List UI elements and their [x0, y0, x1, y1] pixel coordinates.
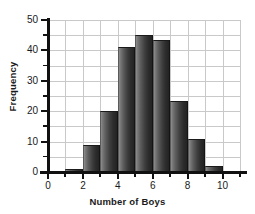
- y-axis-tick: [41, 141, 48, 143]
- bar: [83, 145, 100, 172]
- x-axis-tick-label: 8: [176, 181, 200, 191]
- bar: [135, 35, 152, 172]
- y-axis-tick: [41, 19, 48, 21]
- bar: [100, 111, 117, 172]
- y-axis-minor-tick: [43, 125, 48, 127]
- x-axis-tick-label: 2: [71, 181, 95, 191]
- x-axis-tick: [152, 172, 154, 179]
- x-axis-line: [40, 171, 247, 174]
- x-axis-tick-label: 6: [141, 181, 165, 191]
- x-axis-tick: [222, 172, 224, 179]
- y-axis-tick: [41, 80, 48, 82]
- y-axis-tick: [41, 49, 48, 51]
- x-axis-tick-label: 10: [211, 181, 235, 191]
- x-axis-minor-tick: [99, 172, 101, 177]
- gridline-vertical: [240, 20, 241, 172]
- x-axis-minor-tick: [169, 172, 171, 177]
- x-axis-minor-tick: [239, 172, 241, 177]
- x-axis-tick-label: 4: [106, 181, 130, 191]
- y-axis-minor-tick: [43, 65, 48, 67]
- y-axis-title-text: Frequency: [8, 61, 19, 111]
- bars-layer: [48, 20, 240, 172]
- bar: [153, 40, 170, 172]
- y-axis-tick-label: 10: [14, 137, 38, 147]
- x-axis-tick: [47, 172, 49, 179]
- bar: [170, 101, 187, 172]
- x-axis-tick: [117, 172, 119, 179]
- y-axis-tick-label: 0: [14, 167, 38, 177]
- y-axis-minor-tick: [43, 34, 48, 36]
- x-axis-title: Number of Boys: [0, 196, 255, 207]
- x-axis-minor-tick: [64, 172, 66, 177]
- chart-screenshot: Frequency 010203040500246810 Number of B…: [0, 0, 255, 214]
- bar: [118, 47, 135, 172]
- x-axis-tick: [82, 172, 84, 179]
- y-axis-minor-tick: [43, 156, 48, 158]
- y-axis-tick-label: 20: [14, 106, 38, 116]
- y-axis-minor-tick: [43, 95, 48, 97]
- bar: [188, 139, 205, 172]
- x-axis-tick-label: 0: [36, 181, 60, 191]
- x-axis-minor-tick: [134, 172, 136, 177]
- y-axis-tick-label: 30: [14, 76, 38, 86]
- y-axis-tick-label: 40: [14, 45, 38, 55]
- y-axis-tick: [41, 110, 48, 112]
- y-axis-tick-label: 50: [14, 15, 38, 25]
- x-axis-tick: [187, 172, 189, 179]
- x-axis-minor-tick: [204, 172, 206, 177]
